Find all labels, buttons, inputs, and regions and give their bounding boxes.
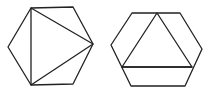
left-hexagon-group — [8, 7, 93, 85]
hexagon-figure — [0, 0, 209, 94]
right-inscribed-triangle — [122, 13, 192, 67]
left-inscribed-triangle — [31, 8, 93, 85]
right-hexagon-outline — [111, 13, 202, 86]
right-hexagon-group — [111, 13, 202, 86]
